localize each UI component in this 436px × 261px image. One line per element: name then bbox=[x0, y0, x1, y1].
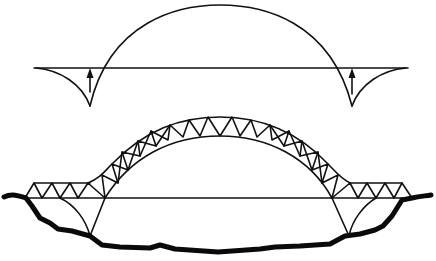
bridge-diagram bbox=[0, 0, 436, 261]
diagram-svg bbox=[0, 0, 436, 261]
left-up-arrow-icon bbox=[87, 68, 94, 92]
right-up-arrow-icon bbox=[349, 68, 356, 94]
arch-outer-chord bbox=[88, 117, 350, 183]
left-approach-truss bbox=[25, 183, 105, 198]
thrust-line-schematic bbox=[34, 5, 408, 106]
right-cusp bbox=[352, 68, 406, 106]
right-arch-leg bbox=[332, 198, 349, 236]
left-cusp bbox=[36, 68, 90, 106]
right-approach-truss bbox=[332, 183, 412, 198]
arch-web-members bbox=[102, 117, 338, 198]
left-arch-leg bbox=[90, 198, 105, 236]
arch-curve bbox=[90, 5, 352, 106]
truss-arch-bridge bbox=[25, 117, 412, 236]
